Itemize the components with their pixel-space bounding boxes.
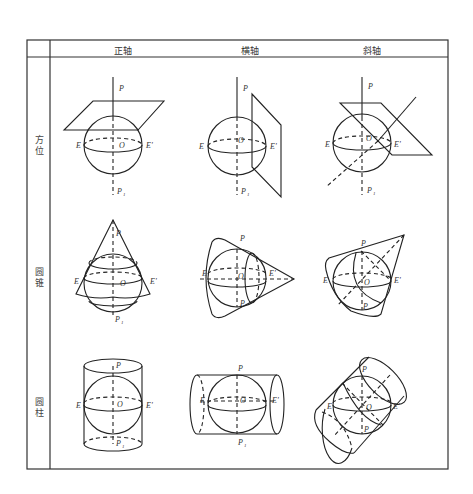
svg-text:E: E [324,140,330,149]
transverse-cylindrical-figure: P E O E' P1 [190,364,284,448]
svg-text:1: 1 [123,192,126,197]
svg-text:1: 1 [247,192,250,197]
oblique-cylindrical-figure: P E O E' P [315,350,414,463]
svg-text:P: P [115,439,121,448]
projection-table-diagram: P E O E' P1 P E O E' P1 P E O E' P1 [0,0,473,494]
svg-text:O: O [366,403,372,412]
svg-text:E: E [322,276,328,285]
svg-text:P: P [115,229,121,238]
svg-text:P: P [115,361,121,370]
label-e: E [75,141,81,150]
svg-text:E': E' [268,269,276,278]
svg-text:E': E' [145,141,153,150]
svg-text:O: O [364,278,370,287]
svg-text:P: P [237,438,243,447]
svg-text:O: O [366,134,372,143]
svg-text:P: P [237,364,243,373]
svg-text:P: P [360,239,366,248]
svg-text:E': E' [393,276,401,285]
svg-text:P: P [367,82,373,91]
svg-text:E: E [75,401,81,410]
svg-text:E': E' [393,140,401,149]
svg-text:P: P [242,84,248,93]
svg-text:P: P [240,187,246,196]
svg-text:P: P [366,186,372,195]
svg-text:E': E' [145,401,153,410]
svg-text:E: E [201,269,207,278]
svg-text:1: 1 [244,443,247,448]
transverse-azimuthal-figure: P E O E' P1 [198,77,281,197]
svg-text:E': E' [149,277,157,286]
svg-text:O: O [120,279,126,288]
normal-azimuthal-figure: P E O E' P1 [64,77,164,197]
transverse-conic-figure: P E O E' P [200,234,294,318]
svg-text:P: P [361,365,367,374]
svg-text:1: 1 [122,444,125,449]
svg-text:P: P [118,84,124,93]
normal-conic-figure: P E O E' P1 [73,220,157,325]
svg-text:P: P [363,425,369,434]
svg-text:E: E [199,396,205,405]
svg-text:E': E' [392,402,400,411]
normal-cylindrical-figure: P E O E' P1 [75,359,153,451]
svg-text:1: 1 [121,320,124,325]
svg-text:P: P [114,315,120,324]
svg-text:O: O [117,400,123,409]
svg-text:E': E' [271,396,279,405]
svg-text:O: O [238,136,244,145]
oblique-azimuthal-figure: P E O E' P1 [324,77,432,196]
svg-text:P: P [362,302,368,311]
oblique-conic-figure: P E O E' P [322,235,404,316]
svg-text:P: P [239,299,245,308]
svg-text:O: O [119,141,125,150]
svg-text:E: E [326,402,332,411]
svg-text:O: O [238,272,244,281]
svg-text:1: 1 [373,191,376,196]
svg-text:O: O [240,396,246,405]
svg-text:E: E [73,277,79,286]
svg-text:P: P [116,187,122,196]
svg-text:E': E' [269,142,277,151]
svg-text:E: E [198,142,204,151]
svg-text:P: P [239,234,245,243]
